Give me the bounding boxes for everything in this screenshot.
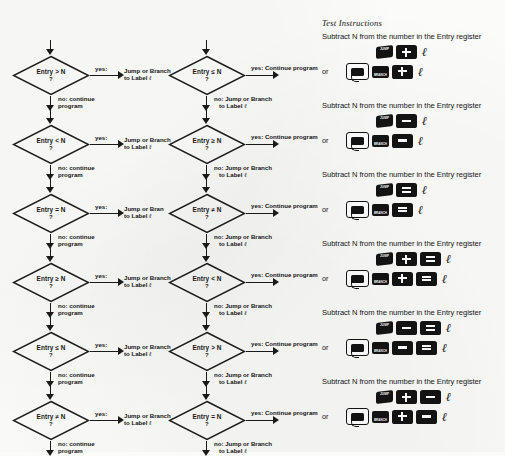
jump-key[interactable]: JUMP xyxy=(376,183,393,197)
minus-key[interactable] xyxy=(420,390,441,404)
label-operand: ℓ xyxy=(442,411,447,423)
decision-diamond-label: Entry < N? xyxy=(168,262,246,303)
jump-key[interactable]: JUMP xyxy=(376,114,393,128)
flowchart-decision-unit: Entry > N?yes: Continue programno: Jump … xyxy=(160,316,320,386)
flowchart-decision-unit: Entry ≤ N?yes:Jump or Branchto Label ℓno… xyxy=(4,316,164,386)
minus-key[interactable] xyxy=(392,341,413,355)
label-operand: ℓ xyxy=(422,184,427,196)
minus-icon xyxy=(402,327,411,329)
test-instructions-heading: Test Instructions xyxy=(322,18,382,28)
shift-prefix-key[interactable] xyxy=(346,201,369,218)
minus-icon xyxy=(402,120,411,122)
jump-key[interactable]: JUMP xyxy=(376,390,393,404)
jump-key-label: JUMP xyxy=(380,392,389,396)
flowchart-decision-unit: Entry > N?yes:Jump or Branchto Label ℓno… xyxy=(4,40,164,110)
flow-arrowhead-out xyxy=(202,450,210,456)
keystroke-sequence: BRANCHℓ xyxy=(346,201,423,218)
shift-prefix-key[interactable] xyxy=(346,132,369,149)
label-operand: ℓ xyxy=(418,135,423,147)
shift-prefix-key[interactable] xyxy=(346,339,369,356)
branch-key-label: BRANCH xyxy=(374,418,387,422)
plus-key[interactable] xyxy=(396,390,417,404)
test-instruction-block: Subtract N from the number in the Entry … xyxy=(318,308,505,376)
label-operand: ℓ xyxy=(446,322,451,334)
alternative-separator-label: or xyxy=(322,343,328,352)
branch-key[interactable]: BRANCH xyxy=(372,135,389,147)
equals-key[interactable] xyxy=(420,321,441,335)
yes-branch-line xyxy=(246,213,274,214)
plus-key[interactable] xyxy=(396,252,417,266)
decision-diamond: Entry ≠ N? xyxy=(168,193,246,234)
jump-key[interactable]: JUMP xyxy=(376,45,393,59)
shift-key-arrow-icon xyxy=(351,282,359,289)
shift-prefix-key[interactable] xyxy=(346,270,369,287)
jump-key-label: JUMP xyxy=(380,323,389,327)
label-operand: ℓ xyxy=(442,273,447,285)
yes-branch-label: yes: xyxy=(95,341,107,348)
flowchart-decision-unit: Entry = N?yes:Jump or Branto Label ℓno: … xyxy=(4,178,164,248)
equals-key[interactable] xyxy=(420,252,441,266)
decision-diamond: Entry = N? xyxy=(168,400,246,441)
equals-icon xyxy=(398,207,407,213)
jump-key[interactable]: JUMP xyxy=(376,252,393,266)
plus-icon xyxy=(398,412,407,421)
jump-key-label: JUMP xyxy=(380,116,389,120)
alternative-separator-label: or xyxy=(322,412,328,421)
plus-icon xyxy=(402,255,411,264)
decision-diamond: Entry ≥ N? xyxy=(168,124,246,165)
equals-key[interactable] xyxy=(396,183,417,197)
test-instruction-description: Subtract N from the number in the Entry … xyxy=(322,32,481,41)
plus-key[interactable] xyxy=(392,272,413,286)
branch-key[interactable]: BRANCH xyxy=(372,342,389,354)
yes-branch-line xyxy=(246,420,274,421)
decision-diamond-label: Entry = N? xyxy=(168,400,246,441)
test-instruction-description: Subtract N from the number in the Entry … xyxy=(322,239,481,248)
label-operand: ℓ xyxy=(418,66,423,78)
decision-diamond-label: Entry ≥ N? xyxy=(168,124,246,165)
plus-icon xyxy=(398,67,407,76)
equals-icon xyxy=(402,187,411,193)
flowchart-decision-unit: Entry ≥ N?yes:Jump or Branchto Label ℓno… xyxy=(4,247,164,317)
plus-key[interactable] xyxy=(396,45,417,59)
minus-key[interactable] xyxy=(392,134,413,148)
yes-branch-target-label: Jump or Branto Label ℓ xyxy=(124,205,164,221)
label-operand: ℓ xyxy=(442,342,447,354)
branch-key[interactable]: BRANCH xyxy=(372,66,389,78)
flowchart-decision-unit: Entry < N?yes: Continue programno: Jump … xyxy=(160,247,320,317)
decision-diamond-label: Entry > N? xyxy=(12,55,90,96)
flowchart-decision-unit: Entry ≠ N?yes: Continue programno: Jump … xyxy=(160,178,320,248)
label-operand: ℓ xyxy=(446,253,451,265)
minus-icon xyxy=(398,346,407,348)
keystroke-sequence: JUMPℓ xyxy=(376,321,451,335)
shift-prefix-key[interactable] xyxy=(346,408,369,425)
keystroke-sequence: JUMPℓ xyxy=(376,45,427,59)
no-branch-label: no: continueprogram xyxy=(58,95,95,110)
label-operand: ℓ xyxy=(418,204,423,216)
plus-key[interactable] xyxy=(392,410,413,424)
yes-branch-arrowhead xyxy=(273,416,279,424)
test-instruction-description: Subtract N from the number in the Entry … xyxy=(322,308,481,317)
branch-key[interactable]: BRANCH xyxy=(372,411,389,423)
test-instruction-block: Subtract N from the number in the Entry … xyxy=(318,32,505,100)
equals-key[interactable] xyxy=(416,341,437,355)
test-instruction-block: Subtract N from the number in the Entry … xyxy=(318,377,505,445)
decision-diamond: Entry ≠ N? xyxy=(12,400,90,441)
shift-key-arrow-icon xyxy=(351,351,359,358)
minus-key[interactable] xyxy=(416,410,437,424)
branch-key[interactable]: BRANCH xyxy=(372,273,389,285)
keystroke-sequence: BRANCHℓ xyxy=(346,339,447,356)
minus-key[interactable] xyxy=(396,321,417,335)
shift-prefix-key[interactable] xyxy=(346,63,369,80)
yes-branch-label: yes: Continue program xyxy=(251,409,318,416)
branch-key[interactable]: BRANCH xyxy=(372,204,389,216)
plus-key[interactable] xyxy=(392,65,413,79)
equals-key[interactable] xyxy=(392,203,413,217)
minus-key[interactable] xyxy=(396,114,417,128)
shift-key-arrow-icon xyxy=(351,420,359,427)
equals-key[interactable] xyxy=(416,272,437,286)
flow-arrowhead-out xyxy=(46,450,54,456)
jump-key[interactable]: JUMP xyxy=(376,321,393,335)
decision-diamond-label: Entry ≥ N? xyxy=(12,262,90,303)
test-instruction-description: Subtract N from the number in the Entry … xyxy=(322,170,481,179)
decision-diamond-label: Entry < N? xyxy=(12,124,90,165)
